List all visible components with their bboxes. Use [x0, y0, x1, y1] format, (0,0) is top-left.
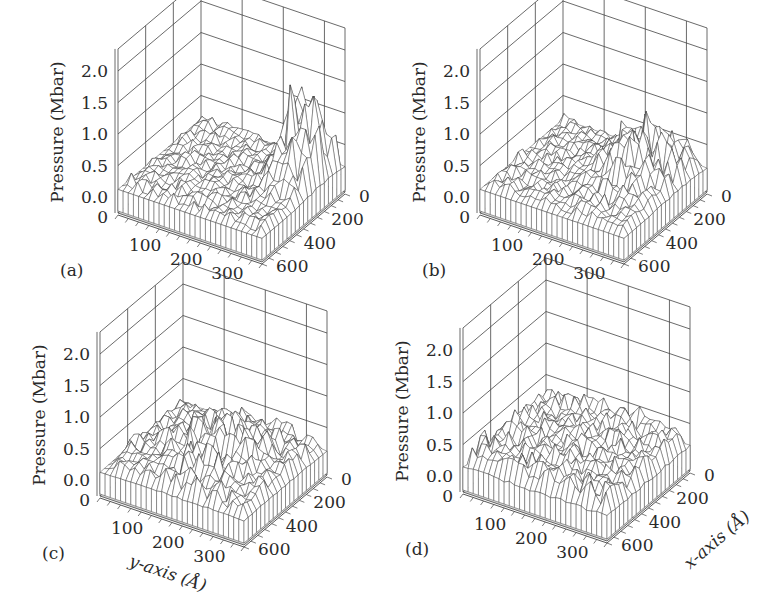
y-tick-mark: [107, 502, 110, 506]
y-tick-mark: [128, 509, 131, 513]
x-tick-mark: [306, 495, 311, 497]
y-tick-mark: [611, 261, 614, 265]
y-tick-mark: [570, 247, 573, 251]
x-tick-mark: [683, 479, 688, 481]
y-tick-mark: [470, 498, 473, 502]
panel-a: 2.01.51.00.50.001002003000200400600Press…: [47, 0, 370, 283]
x-tick-label: 0: [341, 469, 352, 489]
x-tick-mark: [624, 264, 629, 266]
x-tick-mark: [345, 194, 350, 196]
z-tick-label: 1.5: [81, 93, 108, 113]
x-tick-label: 200: [331, 209, 363, 229]
z-tick-label: 0.5: [81, 156, 108, 176]
y-tick-mark: [156, 229, 159, 233]
y-tick-mark: [241, 547, 244, 551]
x-tick-mark: [662, 496, 667, 498]
x-tick-mark: [693, 206, 698, 208]
y-tick-mark: [508, 226, 511, 230]
y-tick-mark: [115, 215, 118, 219]
y-tick-mark: [197, 243, 200, 247]
y-tick-label: 100: [491, 235, 523, 255]
x-tick-mark: [317, 217, 322, 219]
y-tick-mark: [518, 229, 521, 233]
y-tick-mark: [604, 543, 607, 547]
y-tick-mark: [487, 219, 490, 223]
y-tick-label: 200: [515, 528, 547, 548]
y-tick-mark: [573, 533, 576, 537]
x-tick-mark: [607, 543, 612, 545]
y-tick-mark: [220, 540, 223, 544]
wall-gridline: [480, 64, 707, 134]
y-tick-mark: [528, 233, 531, 237]
z-tick-label: 1.0: [63, 407, 90, 427]
z-tick-label: 2.0: [426, 340, 453, 360]
y-tick-mark: [621, 264, 624, 268]
x-tick-label: 200: [693, 209, 725, 229]
panel-label: (b): [422, 260, 446, 280]
y-tick-mark: [259, 264, 262, 268]
x-axis-title: x-axis (Å): [680, 506, 754, 573]
x-tick-mark: [631, 258, 636, 260]
y-tick-label: 100: [111, 518, 143, 538]
z-tick-label: 0.0: [63, 470, 90, 490]
panel-b: 2.01.51.00.50.001002003000200400600Press…: [409, 0, 732, 283]
y-tick-mark: [563, 529, 566, 533]
z-axis-title: Pressure (Mbar): [29, 344, 49, 485]
x-tick-mark: [279, 518, 284, 520]
y-tick-mark: [218, 250, 221, 254]
x-tick-mark: [327, 477, 332, 479]
x-tick-mark: [690, 473, 695, 475]
y-tick-mark: [238, 257, 241, 261]
x-tick-mark: [265, 530, 270, 532]
x-tick-mark: [251, 541, 256, 543]
x-tick-mark: [649, 508, 654, 510]
z-tick-label: 2.0: [63, 344, 90, 364]
z-tick-label: 1.0: [426, 403, 453, 423]
y-origin-label: 0: [79, 490, 90, 510]
x-tick-mark: [642, 514, 647, 516]
z-tick-label: 2.0: [443, 61, 470, 81]
z-tick-label: 2.0: [81, 61, 108, 81]
y-tick-mark: [210, 537, 213, 541]
x-tick-mark: [666, 229, 671, 231]
z-tick-label: 1.5: [443, 93, 470, 113]
y-tick-mark: [231, 544, 234, 548]
x-tick-mark: [262, 264, 267, 266]
y-tick-mark: [148, 516, 151, 520]
y-tick-mark: [136, 222, 139, 226]
z-tick-label: 0.0: [426, 466, 453, 486]
x-tick-mark: [655, 502, 660, 504]
y-tick-mark: [481, 501, 484, 505]
y-tick-mark: [553, 526, 556, 530]
x-tick-mark: [276, 252, 281, 254]
x-tick-mark: [659, 235, 664, 237]
wall-gridline: [100, 347, 327, 417]
y-tick-mark: [600, 257, 603, 261]
y-tick-mark: [187, 240, 190, 244]
y-tick-mark: [501, 508, 504, 512]
x-tick-label: 600: [258, 539, 290, 559]
y-tick-mark: [249, 261, 252, 265]
y-tick-mark: [522, 515, 525, 519]
y-tick-mark: [208, 247, 211, 251]
y-tick-mark: [97, 498, 100, 502]
y-tick-mark: [169, 523, 172, 527]
x-tick-label: 400: [649, 512, 681, 532]
x-tick-label: 600: [621, 535, 653, 555]
x-tick-mark: [258, 535, 263, 537]
x-tick-mark: [324, 212, 329, 214]
x-tick-mark: [679, 217, 684, 219]
z-tick-label: 0.5: [63, 439, 90, 459]
x-tick-mark: [645, 247, 650, 249]
x-tick-mark: [638, 252, 643, 254]
y-tick-mark: [166, 233, 169, 237]
y-tick-mark: [177, 236, 180, 240]
x-tick-mark: [244, 547, 249, 549]
z-tick-label: 1.0: [81, 124, 108, 144]
y-tick-mark: [118, 505, 121, 509]
z-tick-label: 0.0: [81, 187, 108, 207]
z-tick-label: 1.5: [63, 376, 90, 396]
x-tick-mark: [283, 247, 288, 249]
wall-gridline: [100, 316, 327, 386]
y-tick-mark: [477, 215, 480, 219]
